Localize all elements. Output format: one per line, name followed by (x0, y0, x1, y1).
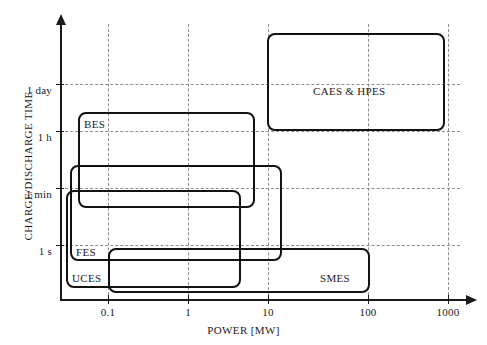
region-label-fes: FES (76, 246, 96, 258)
gridline-x-1000 (448, 24, 449, 300)
x-tick-label-1000: 1000 (437, 306, 460, 318)
region-box-caes-hpes (267, 33, 445, 131)
y-tick-mark-1min (56, 188, 64, 189)
x-tick-mark-1000 (448, 295, 449, 304)
y-tick-label-1h: 1 h (38, 131, 52, 143)
x-tick-mark-0.1 (108, 295, 109, 304)
x-axis-line (60, 299, 467, 301)
x-tick-mark-10 (268, 295, 269, 304)
y-tick-label-1s: 1 s (39, 245, 52, 257)
region-box-smes (108, 248, 370, 293)
y-tick-mark-1h (56, 131, 64, 132)
region-label-smes: SMES (320, 272, 350, 284)
x-axis-title: POWER [MW] (0, 324, 487, 336)
storage-technology-chart: BES FES UCES SMES CAES & HPES 0.1 1 10 1… (0, 0, 487, 345)
y-axis-title: CHARGE/DISCHARGE TIME (22, 36, 34, 296)
x-tick-mark-1 (188, 295, 189, 304)
x-tick-label-100: 100 (359, 306, 376, 318)
y-tick-mark-1day (56, 84, 64, 85)
plot-area: BES FES UCES SMES CAES & HPES 0.1 1 10 1… (0, 0, 487, 345)
x-tick-label-10: 10 (262, 306, 273, 318)
region-label-uces: UCES (72, 272, 101, 284)
x-tick-label-0.1: 0.1 (101, 306, 115, 318)
region-label-bes: BES (84, 118, 105, 130)
region-label-caes-hpes: CAES & HPES (313, 85, 385, 97)
y-axis-line (60, 24, 62, 300)
x-axis-arrow (466, 295, 477, 305)
y-axis-arrow (56, 14, 66, 25)
x-tick-mark-100 (368, 295, 369, 304)
x-tick-label-1: 1 (185, 306, 191, 318)
y-tick-mark-1s (56, 245, 64, 246)
